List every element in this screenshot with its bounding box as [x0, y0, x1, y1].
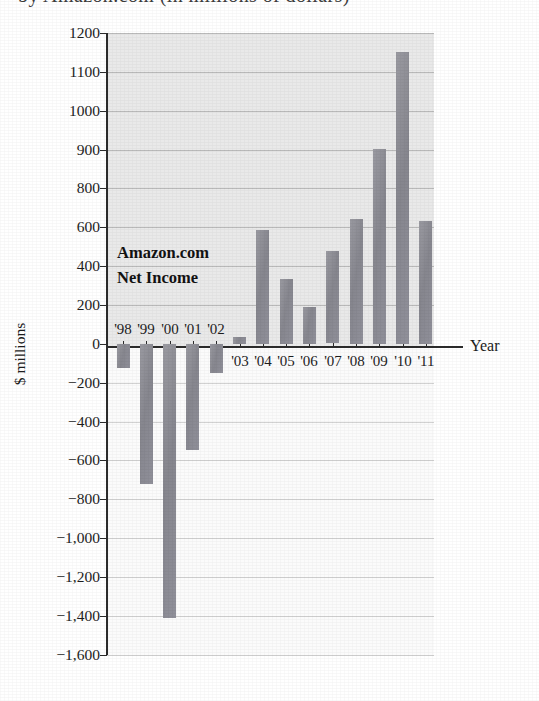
y-tick-label-wrap: −400: [30, 414, 100, 430]
x-tick-label: '11: [406, 354, 446, 369]
y-tick-label-wrap: −200: [30, 375, 100, 391]
y-axis-title: $ millions: [11, 306, 29, 402]
y-tick-label: 400: [38, 258, 100, 274]
y-tick-label-wrap: 1000: [30, 103, 100, 119]
y-tick-label-wrap: −1,000: [30, 530, 100, 546]
y-tick-label-wrap: −1,200: [30, 569, 100, 585]
y-tick-mark: [100, 499, 107, 500]
y-tick-label: 600: [38, 219, 100, 235]
bar: [419, 221, 432, 344]
y-tick-label: −800: [38, 491, 100, 507]
y-tick-mark: [100, 188, 107, 189]
annotation-line-2: Net Income: [117, 265, 209, 290]
y-tick-mark: [100, 422, 107, 423]
gridline: [107, 383, 434, 384]
gridline: [107, 111, 434, 112]
y-tick-mark: [100, 305, 107, 306]
y-tick-mark: [100, 111, 107, 112]
bar: [233, 337, 246, 344]
gridline: [107, 499, 434, 500]
annotation-line-1: Amazon.com: [117, 240, 209, 265]
bar: [350, 219, 363, 344]
gridline: [107, 655, 434, 656]
y-tick-label: −400: [38, 414, 100, 430]
x-tick-label: '02: [196, 322, 236, 337]
y-tick-mark: [100, 33, 107, 34]
bar: [326, 251, 339, 343]
plot-panel-lower: [107, 347, 434, 655]
y-tick-label-wrap: 900: [30, 142, 100, 158]
y-tick-mark: [100, 655, 107, 656]
y-tick-label-wrap: 200: [30, 297, 100, 313]
y-tick-label: −1,600: [38, 647, 100, 663]
y-tick-label-wrap: 600: [30, 219, 100, 235]
y-tick-label-wrap: 800: [30, 180, 100, 196]
gridline: [107, 616, 434, 617]
y-tick-label: 1100: [38, 64, 100, 80]
y-tick-mark: [100, 538, 107, 539]
bar: [373, 149, 386, 344]
gridline: [107, 538, 434, 539]
y-tick-label-wrap: −1,600: [30, 647, 100, 663]
bar: [396, 52, 409, 344]
y-tick-label: −1,400: [38, 608, 100, 624]
gridline: [107, 33, 434, 34]
gridline: [107, 577, 434, 578]
y-tick-label: 0: [38, 336, 100, 352]
bar: [280, 279, 293, 344]
gridline: [107, 72, 434, 73]
y-tick-mark: [100, 616, 107, 617]
y-tick-label: −1,200: [38, 569, 100, 585]
bar: [186, 344, 199, 450]
y-tick-label: −600: [38, 452, 100, 468]
y-tick-mark: [100, 344, 107, 345]
y-tick-label-wrap: 1100: [30, 64, 100, 80]
bar-chart: 1200110010009008006004002000−200−400−600…: [0, 0, 539, 701]
series-annotation: Amazon.com Net Income: [117, 240, 209, 290]
y-tick-label-wrap: −1,400: [30, 608, 100, 624]
y-tick-label: 200: [38, 297, 100, 313]
y-tick-label: −200: [38, 375, 100, 391]
x-axis-title: Year: [470, 337, 499, 355]
y-tick-label-wrap: −800: [30, 491, 100, 507]
x-axis-zero-line: [106, 346, 463, 348]
gridline: [107, 460, 434, 461]
y-tick-mark: [100, 227, 107, 228]
y-tick-mark: [100, 266, 107, 267]
y-tick-label: 800: [38, 180, 100, 196]
y-tick-label-wrap: 1200: [30, 25, 100, 41]
y-tick-mark: [100, 383, 107, 384]
y-tick-mark: [100, 72, 107, 73]
bar: [303, 307, 316, 344]
gridline: [107, 422, 434, 423]
y-tick-label: −1,000: [38, 530, 100, 546]
bar: [117, 344, 130, 368]
y-tick-label-wrap: 400: [30, 258, 100, 274]
y-tick-label: 1200: [38, 25, 100, 41]
y-tick-mark: [100, 460, 107, 461]
y-tick-label: 1000: [38, 103, 100, 119]
bar: [256, 230, 269, 344]
y-tick-label-wrap: 0: [30, 336, 100, 352]
y-tick-label-wrap: −600: [30, 452, 100, 468]
bar: [210, 344, 223, 373]
bar: [163, 344, 176, 618]
bar: [140, 344, 153, 484]
y-tick-mark: [100, 577, 107, 578]
y-tick-mark: [100, 150, 107, 151]
y-tick-label: 900: [38, 142, 100, 158]
